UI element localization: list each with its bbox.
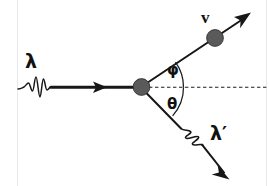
recoil-electron-arrowhead: [234, 13, 251, 29]
incident-photon-wavepacket: [18, 77, 51, 97]
compton-diagram-canvas: [0, 0, 269, 186]
target-electron-vertex: [133, 79, 150, 96]
electron-velocity-label: v: [201, 9, 210, 26]
recoil-electron-track: [141, 17, 246, 87]
compton-scattering-figure: λ v φ θ λ′: [0, 0, 269, 186]
phi-angle-label: φ: [167, 63, 179, 78]
scattered-photon-ray-outer: [202, 145, 224, 173]
theta-angle-label: θ: [167, 97, 177, 112]
recoil-electron-dot: [207, 30, 224, 47]
incident-photon-label: λ: [25, 52, 37, 71]
scattered-photon-wavepacket: [181, 129, 203, 146]
scattered-photon-label: λ′: [210, 124, 227, 143]
